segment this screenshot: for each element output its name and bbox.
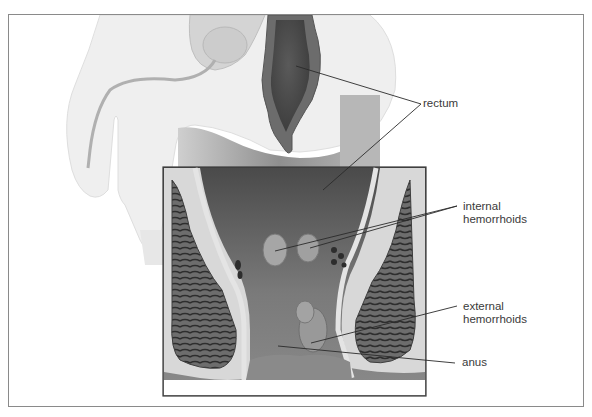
- label-internal-hemorrhoids: internal hemorrhoids: [463, 200, 527, 226]
- label-rectum: rectum: [423, 97, 458, 110]
- anatomy-figure: rectum internal hemorrhoids external hem…: [0, 0, 592, 417]
- inset-panel: [163, 167, 426, 396]
- label-external-hemorrhoids: external hemorrhoids: [463, 300, 527, 326]
- label-anus: anus: [462, 356, 487, 369]
